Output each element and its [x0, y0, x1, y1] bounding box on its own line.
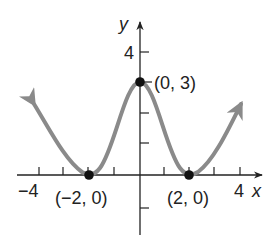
- y-tick-label-4: 4: [124, 43, 134, 63]
- point-neg2-0: [84, 170, 94, 180]
- point-label-2-0: (2, 0): [167, 188, 209, 208]
- point-2-0: [184, 170, 194, 180]
- y-axis-label: y: [117, 14, 129, 34]
- curve: [34, 82, 241, 175]
- point-0-3: [135, 77, 145, 87]
- x-tick-label-4: 4: [234, 181, 244, 201]
- point-label-0-3: (0, 3): [154, 73, 196, 93]
- y-ticks: [140, 52, 149, 208]
- graph: y x 4 −4 4 (0, 3) (−2, 0) (2, 0): [0, 0, 269, 241]
- x-axis-label: x: [251, 181, 262, 201]
- x-tick-label-neg4: −4: [18, 181, 39, 201]
- point-label-neg2-0: (−2, 0): [55, 188, 108, 208]
